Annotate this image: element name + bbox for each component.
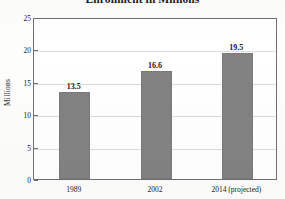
- y-axis-tick-label: 5: [5, 143, 31, 152]
- y-axis-tick-label: 20: [5, 46, 31, 55]
- bar-value-label: 13.5: [67, 82, 81, 91]
- bar[interactable]: [222, 53, 253, 179]
- y-axis-tick-label: 0: [5, 176, 31, 185]
- bar-value-label: 19.5: [229, 43, 243, 52]
- y-axis-tick-mark: [34, 18, 38, 19]
- chart-figure: Enrollment in Millions Millions 05101520…: [0, 0, 285, 199]
- y-axis-tick-mark: [34, 148, 38, 149]
- bar[interactable]: [59, 92, 90, 179]
- x-axis-tick-label: 1989: [66, 185, 81, 194]
- x-axis-tick-label: 2002: [148, 185, 163, 194]
- y-axis-tick-label: 15: [5, 78, 31, 87]
- y-axis-tick-mark: [34, 83, 38, 84]
- y-axis-tick-labels: 0510152025: [0, 18, 31, 180]
- y-axis-tick-label: 10: [5, 111, 31, 120]
- x-axis-tick-label: 2014 (projected): [211, 185, 261, 194]
- y-axis-tick-label: 25: [5, 14, 31, 23]
- y-axis-tick-mark: [34, 50, 38, 51]
- y-axis-tick-mark: [34, 115, 38, 116]
- bar-value-label: 16.6: [148, 61, 162, 70]
- chart-title: Enrollment in Millions: [0, 0, 285, 5]
- bar[interactable]: [141, 71, 172, 179]
- y-axis-tick-mark: [34, 180, 38, 181]
